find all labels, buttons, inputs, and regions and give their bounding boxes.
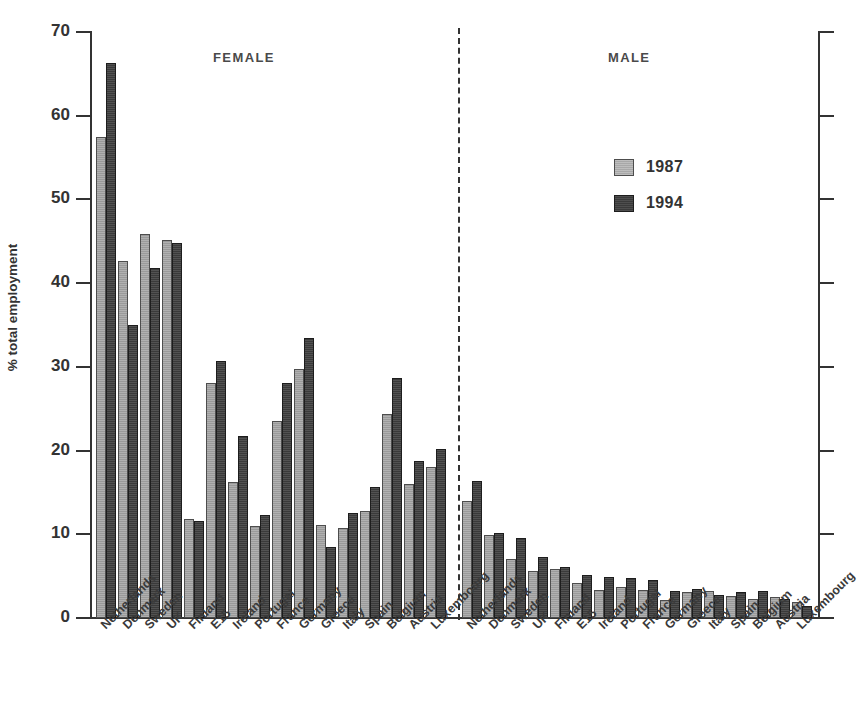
y-tick-label: 30 xyxy=(28,356,70,376)
bar-female-belgium-1987 xyxy=(382,414,392,618)
right-tick xyxy=(820,31,834,33)
right-tick xyxy=(820,282,834,284)
right-tick xyxy=(820,198,834,200)
bar-female-e15-1994 xyxy=(216,361,226,618)
legend-item-1994: 1994 xyxy=(614,194,683,212)
group-divider xyxy=(458,28,460,620)
bar-female-belgium-1994 xyxy=(392,378,402,618)
y-tick xyxy=(76,115,91,117)
legend: 1987 1994 xyxy=(614,158,683,230)
legend-swatch-1994 xyxy=(614,195,634,212)
y-tick-label: 20 xyxy=(28,440,70,460)
bar-female-france-1994 xyxy=(282,383,292,618)
right-tick xyxy=(820,533,834,535)
bar-female-netherlands-1987 xyxy=(96,137,106,618)
group-label-female: FEMALE xyxy=(213,50,275,65)
right-tick xyxy=(820,115,834,117)
right-tick xyxy=(820,450,834,452)
bar-male-netherlands-1994 xyxy=(472,481,482,618)
right-tick xyxy=(820,366,834,368)
bar-female-e15-1987 xyxy=(206,383,216,618)
bar-female-france-1987 xyxy=(272,421,282,618)
bar-female-denmark-1994 xyxy=(128,325,138,618)
x-axis-labels: NetherlandsDenmarkSwedenUKFinlandE15Irel… xyxy=(92,622,832,719)
y-tick-label: 50 xyxy=(28,188,70,208)
y-tick-label: 60 xyxy=(28,105,70,125)
y-tick xyxy=(76,198,91,200)
y-tick-label: 70 xyxy=(28,21,70,41)
bar-female-sweden-1994 xyxy=(150,268,160,618)
plot-area xyxy=(92,32,810,618)
bar-female-germany-1994 xyxy=(304,338,314,618)
y-tick-label: 40 xyxy=(28,272,70,292)
bar-female-spain-1987 xyxy=(360,511,370,618)
bar-female-netherlands-1994 xyxy=(106,63,116,618)
bar-female-spain-1994 xyxy=(370,487,380,618)
group-label-male: MALE xyxy=(608,50,650,65)
y-axis-title: % total employment xyxy=(5,148,20,468)
y-tick-label: 0 xyxy=(28,607,70,627)
right-axis-line xyxy=(818,31,820,619)
legend-swatch-1987 xyxy=(614,159,634,176)
y-tick xyxy=(76,617,91,619)
bar-female-denmark-1987 xyxy=(118,261,128,618)
y-tick xyxy=(76,450,91,452)
legend-item-1987: 1987 xyxy=(614,158,683,176)
y-tick xyxy=(76,366,91,368)
y-tick xyxy=(76,31,91,33)
y-tick-label: 10 xyxy=(28,523,70,543)
legend-label-1994: 1994 xyxy=(646,194,683,212)
bar-male-finland-1987 xyxy=(550,569,560,618)
bar-female-finland-1987 xyxy=(184,519,194,618)
bar-female-sweden-1987 xyxy=(140,234,150,618)
bar-female-germany-1987 xyxy=(294,369,304,618)
y-tick xyxy=(76,533,91,535)
bar-series-container xyxy=(92,32,810,618)
y-tick xyxy=(76,282,91,284)
bar-female-finland-1994 xyxy=(194,521,204,618)
bar-female-uk-1987 xyxy=(162,240,172,618)
bar-female-ireland-1994 xyxy=(238,436,248,618)
bar-female-ireland-1987 xyxy=(228,482,238,618)
bar-female-uk-1994 xyxy=(172,243,182,618)
legend-label-1987: 1987 xyxy=(646,158,683,176)
